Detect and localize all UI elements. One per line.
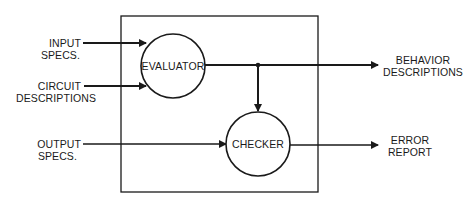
input-specs-line1: INPUT xyxy=(2,37,81,49)
behavior-descriptions-line2: DESCRIPTIONS xyxy=(380,66,466,78)
error-report-line1: ERROR xyxy=(380,134,440,146)
output-specs-line2: SPECS. xyxy=(2,150,81,162)
evaluator-label: EVALUATOR xyxy=(141,60,205,72)
error-report-label: ERROR REPORT xyxy=(380,134,440,158)
input-specs-label: INPUT SPECS. xyxy=(2,37,81,61)
input-specs-line2: SPECS. xyxy=(2,49,81,61)
circuit-descriptions-line2: DESCRIPTIONS xyxy=(0,92,96,104)
error-report-line2: REPORT xyxy=(380,146,440,158)
output-specs-line1: OUTPUT xyxy=(2,138,81,150)
checker-label: CHECKER xyxy=(226,138,290,150)
behavior-descriptions-label: BEHAVIOR DESCRIPTIONS xyxy=(380,54,466,78)
circuit-descriptions-line1: CIRCUIT xyxy=(0,80,96,92)
output-specs-label: OUTPUT SPECS. xyxy=(2,138,81,162)
behavior-descriptions-line1: BEHAVIOR xyxy=(380,54,466,66)
circuit-descriptions-label: CIRCUIT DESCRIPTIONS xyxy=(0,80,96,104)
